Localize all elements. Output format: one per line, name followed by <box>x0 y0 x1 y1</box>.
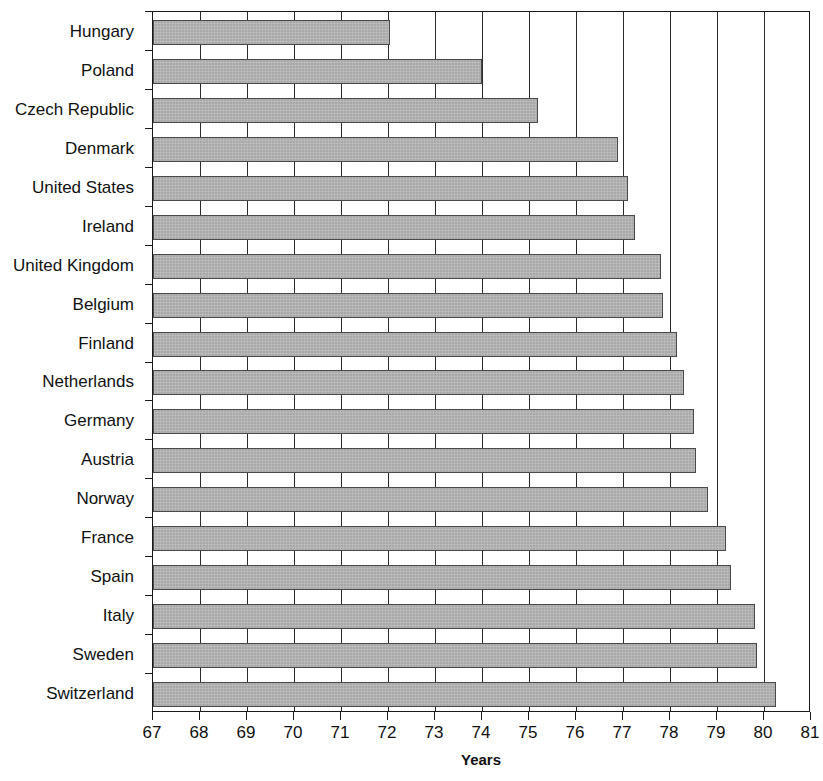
bar-row <box>153 682 811 707</box>
category-tick <box>145 556 152 557</box>
category-label: Germany <box>0 408 134 433</box>
x-tick-label: 80 <box>743 722 783 744</box>
bar <box>153 59 482 84</box>
category-tick <box>145 245 152 246</box>
x-tick <box>293 712 294 720</box>
category-tick <box>145 167 152 168</box>
x-tick <box>152 712 153 720</box>
category-label: Italy <box>0 603 134 628</box>
bar-row <box>153 526 811 551</box>
bar <box>153 565 731 590</box>
bar-row <box>153 254 811 279</box>
category-tick <box>145 517 152 518</box>
category-label: Ireland <box>0 214 134 239</box>
x-tick <box>528 712 529 720</box>
x-tick-label: 77 <box>602 722 642 744</box>
bar <box>153 409 694 434</box>
x-axis-ticks <box>152 712 810 721</box>
bar-row <box>153 332 811 357</box>
x-tick <box>246 712 247 720</box>
x-tick <box>716 712 717 720</box>
category-tick <box>145 284 152 285</box>
category-label: Austria <box>0 447 134 472</box>
bar <box>153 526 726 551</box>
x-tick-label: 73 <box>414 722 454 744</box>
x-tick-label: 81 <box>790 722 823 744</box>
bar <box>153 137 618 162</box>
bar-row <box>153 643 811 668</box>
x-tick-label: 74 <box>461 722 501 744</box>
bar-row <box>153 98 811 123</box>
x-tick-label: 76 <box>555 722 595 744</box>
category-label: Spain <box>0 564 134 589</box>
x-tick-label: 70 <box>273 722 313 744</box>
category-label: Denmark <box>0 136 134 161</box>
bar <box>153 98 538 123</box>
x-tick <box>810 712 811 720</box>
bar-row <box>153 370 811 395</box>
bar-row <box>153 215 811 240</box>
bar-row <box>153 448 811 473</box>
category-tick <box>145 50 152 51</box>
bar <box>153 448 696 473</box>
x-tick-label: 78 <box>649 722 689 744</box>
category-tick <box>145 478 152 479</box>
category-label: Hungary <box>0 19 134 44</box>
x-tick-label: 71 <box>320 722 360 744</box>
x-tick-label: 68 <box>179 722 219 744</box>
plot-area <box>152 11 810 712</box>
bar-row <box>153 565 811 590</box>
category-label: Belgium <box>0 292 134 317</box>
bar <box>153 215 635 240</box>
x-tick-label: 79 <box>696 722 736 744</box>
x-tick <box>199 712 200 720</box>
x-axis-tick-labels: 676869707172737475767778798081 <box>0 722 823 746</box>
x-tick <box>763 712 764 720</box>
x-tick-label: 75 <box>508 722 548 744</box>
bar <box>153 604 755 629</box>
category-tick <box>145 128 152 129</box>
bar-row <box>153 59 811 84</box>
bar-row <box>153 20 811 45</box>
category-label: Finland <box>0 331 134 356</box>
bar <box>153 682 776 707</box>
category-label: France <box>0 525 134 550</box>
bar <box>153 487 708 512</box>
category-tick <box>145 206 152 207</box>
category-label: United States <box>0 175 134 200</box>
category-label: Netherlands <box>0 369 134 394</box>
category-label: United Kingdom <box>0 253 134 278</box>
category-axis-labels: HungaryPolandCzech RepublicDenmarkUnited… <box>0 11 144 712</box>
x-tick-label: 72 <box>367 722 407 744</box>
bar <box>153 176 628 201</box>
category-tick <box>145 89 152 90</box>
x-tick-label: 67 <box>132 722 172 744</box>
bar-row <box>153 604 811 629</box>
x-tick <box>434 712 435 720</box>
bar-row <box>153 176 811 201</box>
x-tick <box>387 712 388 720</box>
bar <box>153 370 684 395</box>
x-tick <box>575 712 576 720</box>
bar <box>153 20 390 45</box>
category-tick <box>145 400 152 401</box>
bar-row <box>153 293 811 318</box>
x-tick-label: 69 <box>226 722 266 744</box>
category-label: Sweden <box>0 642 134 667</box>
category-label: Switzerland <box>0 681 134 706</box>
category-tick <box>145 11 152 12</box>
x-tick <box>622 712 623 720</box>
x-tick <box>481 712 482 720</box>
bar-row <box>153 487 811 512</box>
category-tick <box>145 673 152 674</box>
category-tick <box>145 362 152 363</box>
bar <box>153 332 677 357</box>
bar <box>153 254 661 279</box>
category-label: Poland <box>0 58 134 83</box>
category-tick <box>145 323 152 324</box>
category-tick <box>145 439 152 440</box>
category-label: Norway <box>0 486 134 511</box>
x-tick <box>340 712 341 720</box>
bar-row <box>153 409 811 434</box>
category-tick <box>145 634 152 635</box>
